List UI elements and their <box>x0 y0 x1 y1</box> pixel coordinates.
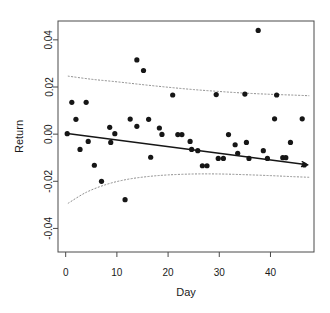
data-point <box>233 142 238 147</box>
data-point <box>195 148 200 153</box>
data-point <box>77 147 82 152</box>
x-tick-label: 20 <box>163 267 175 278</box>
data-point <box>108 140 113 145</box>
data-point <box>141 68 146 73</box>
data-point <box>65 131 70 136</box>
y-tick-label: 0.04 <box>44 30 55 50</box>
x-tick-label: 30 <box>214 267 226 278</box>
y-tick-label: -0.04 <box>44 217 55 240</box>
data-point <box>283 155 288 160</box>
data-point <box>242 91 247 96</box>
data-point <box>265 156 270 161</box>
data-point <box>107 125 112 130</box>
x-tick-label: 10 <box>111 267 123 278</box>
data-point <box>86 139 91 144</box>
data-point <box>159 132 164 137</box>
data-point <box>200 163 205 168</box>
data-point <box>261 148 266 153</box>
data-point <box>235 151 240 156</box>
data-point <box>134 124 139 129</box>
data-point <box>274 92 279 97</box>
x-tick-label: 40 <box>265 267 277 278</box>
y-tick-label: 0.02 <box>44 77 55 97</box>
data-point <box>170 92 175 97</box>
data-point <box>112 131 117 136</box>
x-tick-label: 0 <box>63 267 69 278</box>
plot-canvas: 0.040.020.00-0.02-0.04 010203040 Day Ret… <box>0 0 330 313</box>
data-point <box>214 92 219 97</box>
data-point <box>69 100 74 105</box>
data-point <box>226 132 231 137</box>
data-point <box>244 140 249 145</box>
data-point <box>179 132 184 137</box>
data-point <box>216 156 221 161</box>
data-point <box>122 197 127 202</box>
data-point <box>128 116 133 121</box>
data-point <box>288 140 293 145</box>
data-point <box>73 117 78 122</box>
y-tick-label: 0.00 <box>44 124 55 144</box>
data-point <box>134 57 139 62</box>
data-point <box>300 116 305 121</box>
scatter-plot-figure: 0.040.020.00-0.02-0.04 010203040 Day Ret… <box>0 0 330 313</box>
data-point <box>148 155 153 160</box>
data-point <box>99 179 104 184</box>
data-point <box>146 117 151 122</box>
y-axis-title: Return <box>13 120 25 153</box>
data-point <box>204 163 209 168</box>
data-point <box>92 163 97 168</box>
y-tick-label: -0.02 <box>44 169 55 192</box>
data-point <box>246 156 251 161</box>
data-point <box>157 125 162 130</box>
data-point <box>302 162 307 167</box>
x-axis-title: Day <box>176 286 196 298</box>
data-point <box>221 156 226 161</box>
data-point <box>188 139 193 144</box>
data-point <box>189 147 194 152</box>
data-point <box>256 28 261 33</box>
data-point <box>272 116 277 121</box>
data-point <box>84 100 89 105</box>
